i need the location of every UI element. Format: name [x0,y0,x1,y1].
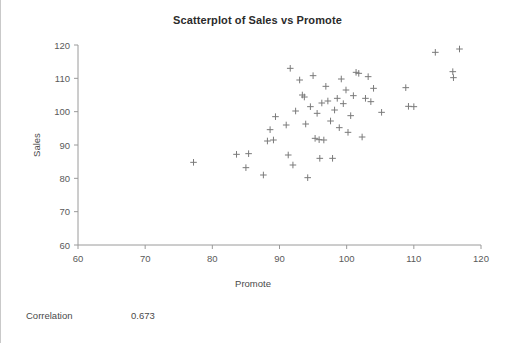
data-point-marker [245,150,252,157]
y-tick-label: 100 [54,106,70,117]
data-point-marker [365,73,372,80]
scatterplot-chart: Scatterplot of Sales vs Promote 60708090… [0,0,515,300]
data-point-marker [402,84,409,91]
correlation-row: Correlation 0.673 [0,306,515,328]
plot-canvas: 6070809010011012060708090100110120 Promo… [0,0,515,300]
data-point-marker [302,121,309,128]
data-point-marker [336,124,343,131]
data-point-marker [411,103,418,110]
data-point-marker [331,107,338,114]
data-point-marker [270,137,277,144]
data-point-marker [264,138,271,145]
data-point-marker [290,162,297,169]
y-tick-label: 60 [59,240,70,251]
x-tick-label: 60 [73,253,84,264]
x-tick-label: 100 [339,253,355,264]
data-points-group [190,46,463,181]
axes-group: 6070809010011012060708090100110120 [54,40,489,265]
data-point-marker [343,87,350,94]
data-point-marker [327,118,334,125]
data-point-marker [307,103,314,110]
data-point-marker [190,159,197,166]
y-tick-label: 120 [54,40,70,51]
data-point-marker [378,109,385,116]
data-point-marker [362,95,369,102]
x-tick-label: 90 [274,253,285,264]
x-tick-label: 70 [140,253,151,264]
data-point-marker [334,95,341,102]
data-point-marker [314,110,321,117]
data-point-marker [296,77,303,84]
data-point-marker [233,151,240,158]
y-tick-label: 80 [59,173,70,184]
data-point-marker [243,164,250,171]
y-tick-label: 90 [59,140,70,151]
data-point-marker [368,98,375,105]
y-axis-title: Sales [31,133,42,157]
x-tick-label: 110 [406,253,421,264]
x-axis-title: Promote [235,278,271,289]
data-point-marker [304,174,311,181]
data-point-marker [450,74,457,81]
x-tick-label: 120 [473,253,489,264]
data-point-marker [350,92,357,99]
data-point-marker [312,135,319,142]
data-point-marker [347,112,354,119]
data-point-marker [323,83,330,90]
data-point-marker [260,172,267,179]
data-point-marker [432,49,439,56]
data-point-marker [329,155,336,162]
data-point-marker [317,155,324,162]
data-point-marker [325,98,332,105]
data-point-marker [449,68,456,75]
data-point-marker [285,152,292,159]
correlation-value: 0.673 [131,310,155,321]
data-point-marker [272,113,279,120]
data-point-marker [338,76,345,83]
data-point-marker [370,85,377,92]
data-point-marker [456,46,463,53]
data-point-marker [319,100,326,107]
data-point-marker [340,100,347,107]
data-point-marker [310,72,317,79]
data-point-marker [345,129,352,136]
data-point-marker [321,137,328,144]
data-point-marker [283,122,290,129]
data-point-marker [287,65,294,72]
correlation-label: Correlation [26,310,72,321]
data-point-marker [267,126,274,133]
y-tick-label: 70 [59,206,70,217]
data-point-marker [292,108,299,115]
y-tick-label: 110 [55,73,70,84]
data-point-marker [359,134,366,141]
x-tick-label: 80 [207,253,218,264]
